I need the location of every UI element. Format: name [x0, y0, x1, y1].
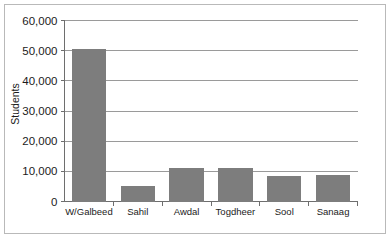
x-axis-tick-label: W/Galbeed [65, 206, 113, 217]
bar [267, 176, 301, 201]
y-axis-tick-label: 60,000 [22, 15, 57, 27]
x-axis-tick-labels: W/GalbeedSahilAwdalTogdheerSoolSanaag [65, 206, 349, 217]
bar [72, 49, 106, 202]
y-axis-ticks: 010,00020,00030,00040,00050,00060,000 [22, 15, 64, 208]
x-axis-tick-label: Sanaag [317, 206, 350, 217]
y-axis-tick-label: 10,000 [22, 165, 57, 177]
y-axis-tick-label: 0 [51, 196, 57, 208]
x-axis-tick-label: Sool [275, 206, 294, 217]
gridlines [65, 21, 358, 172]
y-axis-tick-label: 30,000 [22, 105, 57, 117]
y-axis-tick-label: 40,000 [22, 75, 57, 87]
y-axis-tick-label: 20,000 [22, 135, 57, 147]
y-axis: 010,00020,00030,00040,00050,00060,000 [22, 15, 64, 208]
bar-chart: 010,00020,00030,00040,00050,00060,000 W/… [0, 0, 392, 240]
bar [169, 168, 203, 201]
y-axis-title: Students [9, 83, 21, 124]
bar [218, 168, 252, 201]
chart-canvas: 010,00020,00030,00040,00050,00060,000 W/… [0, 0, 392, 240]
y-axis-tick-label: 50,000 [22, 45, 57, 57]
x-axis-tick-label: Awdal [174, 206, 200, 217]
bar [121, 186, 155, 201]
x-axis-tick-label: Togdheer [216, 206, 256, 217]
x-axis-tick-label: Sahil [127, 206, 148, 217]
bar-series [72, 49, 350, 202]
bar [316, 175, 350, 201]
